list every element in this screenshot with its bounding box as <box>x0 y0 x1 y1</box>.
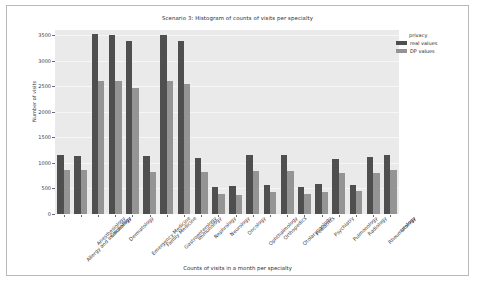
x-tick-mark <box>201 215 202 217</box>
y-tick-label: 500 <box>41 185 51 191</box>
bar-group <box>330 30 347 214</box>
bar-group <box>244 30 261 214</box>
x-axis-tick-labels: Allergy and ImmunologyAnesthesiologyCard… <box>55 215 399 267</box>
bar-dp <box>270 192 276 214</box>
x-tick-mark <box>373 215 374 217</box>
y-tick-label: 3000 <box>38 58 51 64</box>
x-tick-mark <box>132 215 133 217</box>
y-tick-label: 1000 <box>38 160 51 166</box>
x-tick-mark <box>81 215 82 217</box>
bar-dp <box>253 171 259 214</box>
x-tick-mark <box>115 215 116 217</box>
x-tick-mark <box>64 215 65 217</box>
legend-swatch-dp-icon <box>396 49 407 53</box>
x-tick-mark <box>253 215 254 217</box>
plot-area <box>55 30 399 214</box>
x-tick-mark <box>356 215 357 217</box>
legend: privacy real values DP values <box>396 32 458 56</box>
x-tick-mark <box>322 215 323 217</box>
chart-title: Scenario 3: Histogram of counts of visit… <box>7 15 468 21</box>
bar-dp <box>184 84 190 214</box>
x-tick-mark <box>150 215 151 217</box>
bar-dp <box>390 170 396 214</box>
bar-dp <box>98 81 104 214</box>
bar-dp <box>339 173 345 214</box>
bar-group <box>124 30 141 214</box>
bar-group <box>296 30 313 214</box>
bar-group <box>261 30 278 214</box>
bar-dp <box>150 172 156 214</box>
bar-group <box>141 30 158 214</box>
x-tick-mark <box>218 215 219 217</box>
x-tick-mark <box>270 215 271 217</box>
y-tick-label: 0 <box>48 211 51 217</box>
x-tick-mark <box>167 215 168 217</box>
x-tick-mark <box>236 215 237 217</box>
legend-item-real: real values <box>396 40 458 46</box>
x-tick-label: Urology <box>399 215 417 233</box>
bar-group <box>313 30 330 214</box>
bar-group <box>72 30 89 214</box>
y-tick-label: 2500 <box>38 83 51 89</box>
bar-dp <box>218 194 224 214</box>
x-tick-mark <box>98 215 99 217</box>
x-axis-label: Counts of visits in a month per specialt… <box>7 265 468 271</box>
bar-group <box>382 30 399 214</box>
legend-swatch-real-icon <box>396 41 407 45</box>
x-tick-mark <box>287 215 288 217</box>
bar-group <box>347 30 364 214</box>
bar-dp <box>132 88 138 214</box>
bar-group <box>365 30 382 214</box>
bar-group <box>193 30 210 214</box>
bar-group <box>227 30 244 214</box>
x-tick-mark <box>339 215 340 217</box>
legend-label-dp: DP values <box>410 48 435 54</box>
bar-dp <box>167 81 173 214</box>
legend-item-dp: DP values <box>396 48 458 54</box>
y-tick-label: 2000 <box>38 109 51 115</box>
bar-dp <box>236 195 242 214</box>
bar-dp <box>201 172 207 214</box>
bar-dp <box>322 192 328 214</box>
bar-group <box>175 30 192 214</box>
bar-groups <box>55 30 399 214</box>
y-tick-label: 1500 <box>38 134 51 140</box>
bar-dp <box>373 173 379 214</box>
legend-title: privacy <box>396 32 458 38</box>
y-axis: 0500100015002000250030003500 <box>7 30 55 214</box>
x-tick-mark <box>184 215 185 217</box>
legend-label-real: real values <box>410 40 437 46</box>
x-tick-mark <box>390 215 391 217</box>
bar-dp <box>81 170 87 214</box>
bar-group <box>55 30 72 214</box>
bar-dp <box>287 171 293 214</box>
x-tick-mark <box>304 215 305 217</box>
bar-dp <box>115 81 121 214</box>
bar-group <box>89 30 106 214</box>
bar-group <box>158 30 175 214</box>
bar-group <box>107 30 124 214</box>
chart-frame: Scenario 3: Histogram of counts of visit… <box>6 5 469 276</box>
bar-dp <box>304 194 310 214</box>
bar-group <box>210 30 227 214</box>
bar-dp <box>64 170 70 214</box>
bar-dp <box>356 191 362 214</box>
bar-group <box>279 30 296 214</box>
y-tick-label: 3500 <box>38 32 51 38</box>
y-axis-label: Number of visits <box>31 81 37 122</box>
